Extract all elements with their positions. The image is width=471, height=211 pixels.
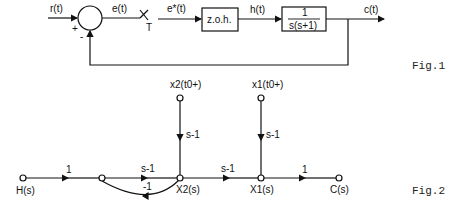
label-X2: X2(s) xyxy=(176,184,200,195)
label-c: c(t) xyxy=(364,4,378,15)
zoh-label: z.o.h. xyxy=(207,14,231,25)
node-x2 xyxy=(177,175,183,181)
fig2-caption: Fig.2 xyxy=(412,185,445,197)
node-x1-init xyxy=(258,95,264,101)
gain-h-n: 1 xyxy=(66,164,72,175)
label-estar: e*(t) xyxy=(167,3,186,14)
node-n xyxy=(99,175,105,181)
label-e: e(t) xyxy=(112,3,127,14)
fig1-caption: Fig.1 xyxy=(412,60,445,72)
label-h: h(t) xyxy=(250,4,265,15)
node-x1 xyxy=(258,175,264,181)
label-X1: X1(s) xyxy=(250,184,274,195)
label-T: T xyxy=(146,22,152,33)
label-plus: + xyxy=(72,23,78,34)
plant-denominator: s(s+1) xyxy=(289,20,317,31)
node-x2-init xyxy=(177,95,183,101)
label-minus: - xyxy=(80,31,83,42)
label-x1-init: x1(t0+) xyxy=(252,79,283,90)
node-h xyxy=(20,175,26,181)
label-r: r(t) xyxy=(50,3,63,14)
gain-x2init: s-1 xyxy=(186,129,200,140)
gain-x2-x1: s-1 xyxy=(221,163,235,174)
label-C: C(s) xyxy=(330,184,349,195)
plant-numerator: 1 xyxy=(302,7,308,18)
branch-x2-n-feedback xyxy=(102,181,178,195)
diagram-canvas: r(t) + - e(t) T e*(t) z.o.h. h(t) 1 s(s+… xyxy=(0,0,471,211)
gain-feedback: -1 xyxy=(143,181,152,192)
label-H: H(s) xyxy=(16,185,35,196)
node-c xyxy=(336,175,342,181)
gain-x1init: s-1 xyxy=(266,129,280,140)
label-x2-init: x2(t0+) xyxy=(170,79,201,90)
gain-n-x2: s-1 xyxy=(141,163,155,174)
gain-x1-c: 1 xyxy=(302,164,308,175)
summing-junction xyxy=(78,6,102,30)
